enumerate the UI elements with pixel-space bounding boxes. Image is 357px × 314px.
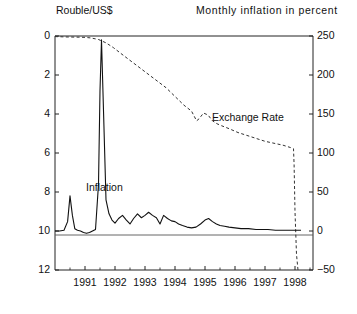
left-tick-0: 0 <box>24 29 50 41</box>
left-tick-12: 12 <box>24 263 50 275</box>
right-tick-200: 200 <box>317 68 351 80</box>
right-tick-150: 150 <box>317 107 351 119</box>
plot-area <box>0 0 357 314</box>
left-tick-2: 2 <box>24 68 50 80</box>
right-tick--50: −50 <box>317 263 351 275</box>
x-tick-1998: 1998 <box>275 276 315 288</box>
left-tick-10: 10 <box>24 224 50 236</box>
left-tick-6: 6 <box>24 146 50 158</box>
annotation-exchange-rate: Exchange Rate <box>212 111 284 123</box>
chart-figure: Rouble/US$ Monthly inflation in percent … <box>0 0 357 314</box>
left-tick-8: 8 <box>24 185 50 197</box>
annotation-inflation: Inflation <box>86 181 123 193</box>
series-inflation <box>55 40 301 233</box>
right-tick-250: 250 <box>317 29 351 41</box>
right-tick-0: 0 <box>317 224 351 236</box>
right-tick-100: 100 <box>317 146 351 158</box>
x-axis-ticks <box>70 266 310 270</box>
right-tick-50: 50 <box>317 185 351 197</box>
left-tick-4: 4 <box>24 107 50 119</box>
